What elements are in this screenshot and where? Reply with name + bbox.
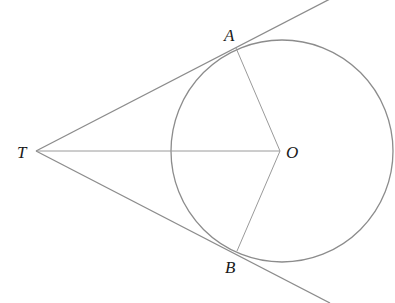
- tangent-line-tb: [36, 151, 330, 303]
- tangent-line-ta: [36, 0, 330, 151]
- radius-ob: [237, 151, 280, 251]
- tangent-diagram: A T O B: [0, 0, 395, 303]
- label-a: A: [223, 26, 235, 45]
- label-b: B: [225, 258, 236, 277]
- label-o: O: [286, 143, 298, 162]
- radius-oa: [236, 48, 280, 151]
- label-t: T: [17, 143, 28, 162]
